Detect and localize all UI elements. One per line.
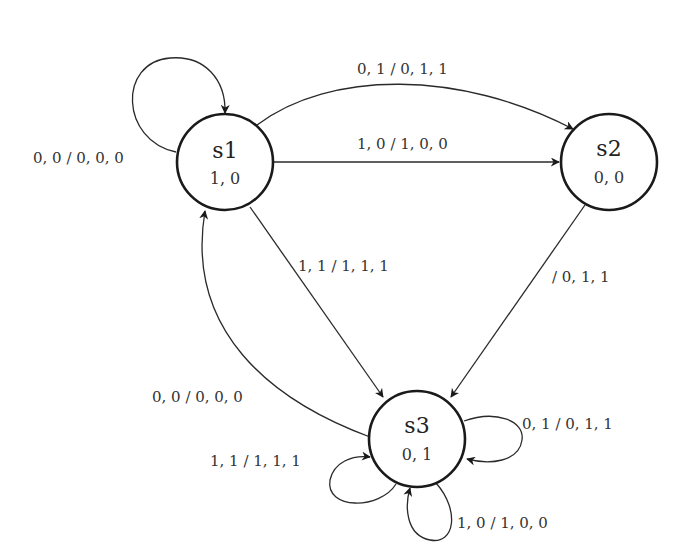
edge-label-s3-s3-bottom: 1, 0 / 1, 0, 0 (457, 514, 548, 532)
state-name: s3 (404, 413, 429, 438)
edge-label-s1-s3: 1, 1 / 1, 1, 1 (298, 257, 389, 275)
state-output: 1, 0 (210, 169, 241, 188)
edge-label-s1-s2-curved: 0, 1 / 0, 1, 1 (357, 60, 448, 78)
edge-label-s3-s3-left: 1, 1 / 1, 1, 1 (210, 452, 301, 470)
state-diagram: 0, 0 / 0, 0, 0 0, 1 / 0, 1, 1 1, 0 / 1, … (0, 0, 695, 547)
edge-s1-s3 (250, 207, 383, 397)
edge-s1-s2-curved (257, 84, 573, 129)
state-name: s1 (212, 138, 237, 163)
state-output: 0, 0 (594, 168, 625, 187)
state-name: s2 (596, 136, 621, 161)
edge-s2-s3 (451, 205, 585, 397)
edge-label-s1-s2-straight: 1, 0 / 1, 0, 0 (357, 135, 448, 153)
state-s2: s2 0, 0 (561, 114, 657, 210)
edge-label-s3-s1: 0, 0 / 0, 0, 0 (152, 388, 243, 406)
state-s3: s3 0, 1 (369, 391, 465, 487)
edge-label-s2-s3: / 0, 1, 1 (552, 268, 610, 286)
edge-label-s3-s3-right: 0, 1 / 0, 1, 1 (522, 415, 613, 433)
state-s1: s1 1, 0 (177, 114, 273, 210)
state-output: 0, 1 (402, 445, 433, 464)
edge-s3-s3-bottom (407, 483, 451, 540)
edge-s3-s3-right (464, 416, 522, 461)
edge-label-s1-s1: 0, 0 / 0, 0, 0 (33, 149, 124, 167)
